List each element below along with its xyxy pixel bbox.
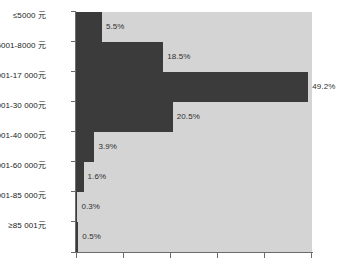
bar-track (76, 192, 312, 222)
bar-row: 60 001-85 000元 0.3% (76, 192, 312, 222)
bar-row: 17 001-30 000元 20.5% (76, 102, 312, 132)
bar (76, 72, 308, 102)
category-label: 5001-8000 元 (0, 42, 46, 50)
x-axis-tick (311, 253, 312, 258)
bar (76, 192, 77, 222)
bar-chart: ≤5000 元 5.5% 5001-8000 元 18.5% 8001-17 0… (0, 0, 337, 270)
x-axis-tick (264, 253, 265, 258)
x-axis-tick (217, 253, 218, 258)
category-label: ≥85 001元 (0, 222, 46, 230)
value-label: 0.3% (81, 203, 100, 211)
bar-row: ≤5000 元 5.5% (76, 12, 312, 42)
bar (76, 102, 173, 132)
bar (76, 132, 94, 162)
x-axis-tick (123, 253, 124, 258)
x-axis-line (75, 252, 313, 253)
bar-row: 8001-17 000元 49.2% (76, 72, 312, 102)
category-label: 8001-17 000元 (0, 72, 46, 80)
category-label: ≤5000 元 (0, 12, 46, 20)
value-label: 1.6% (88, 173, 107, 181)
bar-row: 30 001-40 000元 3.9% (76, 132, 312, 162)
bar-track (76, 222, 312, 252)
bar (76, 42, 163, 72)
value-label: 3.9% (98, 143, 117, 151)
bar-track (76, 162, 312, 192)
bar-row: 40 001-60 000元 1.6% (76, 162, 312, 192)
bar (76, 162, 84, 192)
bar (76, 222, 78, 252)
bar-row: 5001-8000 元 18.5% (76, 42, 312, 72)
bar (76, 12, 102, 42)
category-label: 60 001-85 000元 (0, 192, 46, 200)
x-axis-tick (76, 253, 77, 258)
value-label: 49.2% (312, 83, 335, 91)
value-label: 20.5% (177, 113, 200, 121)
category-label: 40 001-60 000元 (0, 162, 46, 170)
category-label: 17 001-30 000元 (0, 102, 46, 110)
value-label: 18.5% (167, 53, 190, 61)
value-label: 5.5% (106, 23, 125, 31)
bar-row: ≥85 001元 0.5% (76, 222, 312, 252)
category-label: 30 001-40 000元 (0, 132, 46, 140)
x-axis-tick (170, 253, 171, 258)
plot-area: ≤5000 元 5.5% 5001-8000 元 18.5% 8001-17 0… (76, 12, 312, 252)
value-label: 0.5% (82, 233, 101, 241)
